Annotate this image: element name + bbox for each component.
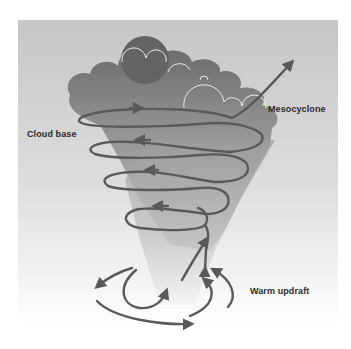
label-warm-updraft: Warm updraft [250,286,309,296]
label-cloud-base: Cloud base [27,129,77,139]
tornado-illustration [0,0,351,349]
label-mesocyclone: Mesocyclone [268,104,326,114]
